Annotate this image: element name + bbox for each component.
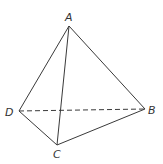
vertex-label-a: A (64, 11, 73, 24)
vertex-label-b: B (148, 104, 156, 117)
vertex-label-c: C (53, 148, 61, 161)
edge-a-b (69, 26, 145, 109)
edge-d-b-hidden (19, 109, 145, 111)
tetrahedron-diagram: A B C D (0, 0, 163, 164)
vertex-label-d: D (5, 106, 13, 119)
edge-b-c (57, 109, 145, 145)
edge-c-d (19, 111, 57, 145)
